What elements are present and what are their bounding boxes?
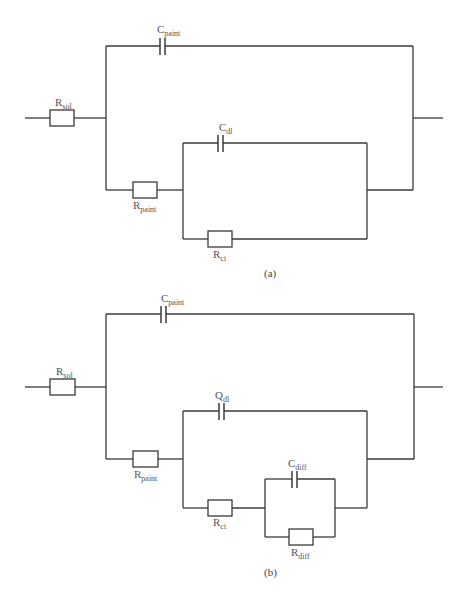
resistor-r-ct — [208, 500, 232, 516]
label-r-paint: Rpaint — [134, 468, 158, 483]
caption-a: (a) — [264, 267, 277, 280]
circuit-b: Rsol Cpaint Rpaint Qdl Rct Cdiff Rdiff (… — [25, 292, 443, 579]
label-r-ct: Rct — [213, 516, 227, 531]
label-c-dl: Cdl — [219, 121, 233, 136]
label-r-sol: Rsol — [55, 96, 72, 111]
label-c-paint: Cpaint — [157, 23, 181, 38]
equivalent-circuit-diagrams: Rsol Cpaint Rpaint Cdl Rct (a) — [0, 0, 465, 596]
resistor-r-diff — [289, 529, 313, 545]
resistor-r-paint — [133, 182, 157, 198]
label-r-paint: Rpaint — [133, 199, 157, 214]
resistor-r-ct — [208, 231, 232, 247]
label-r-ct: Rct — [213, 248, 227, 263]
resistor-r-paint — [133, 451, 158, 467]
label-q-dl: Qdl — [215, 389, 230, 404]
label-r-diff: Rdiff — [291, 546, 310, 561]
label-c-paint: Cpaint — [161, 292, 185, 307]
circuit-a: Rsol Cpaint Rpaint Cdl Rct (a) — [25, 23, 443, 280]
label-c-diff: Cdiff — [288, 457, 307, 472]
resistor-r-sol — [50, 379, 75, 395]
resistor-r-sol — [50, 110, 74, 126]
caption-b: (b) — [264, 566, 277, 579]
label-r-sol: Rsol — [56, 365, 73, 380]
